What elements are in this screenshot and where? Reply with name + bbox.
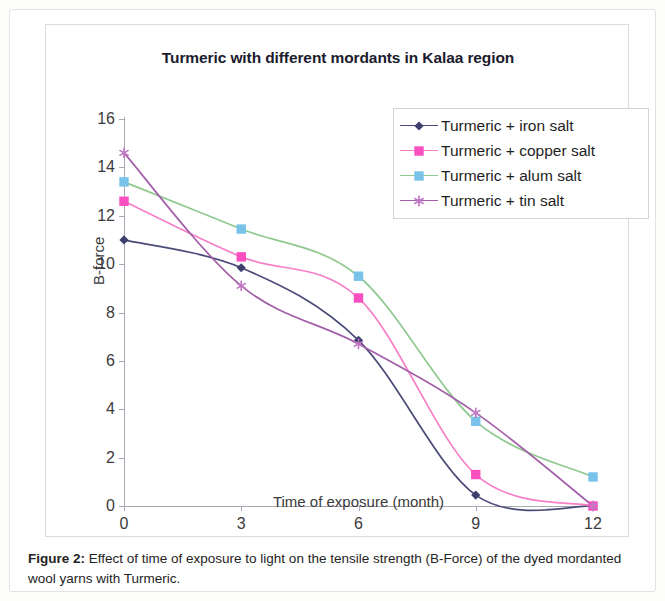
legend-swatch [400, 142, 438, 160]
data-point-marker [414, 171, 423, 180]
data-point-marker [414, 146, 423, 155]
legend-label: Turmeric + alum salt [441, 167, 581, 185]
data-point-marker [119, 177, 128, 186]
x-tick [241, 506, 242, 511]
legend-swatch [400, 192, 438, 210]
data-point-marker [471, 408, 480, 418]
legend-item-2[interactable]: Turmeric + alum salt [400, 163, 642, 188]
data-point-marker [237, 252, 246, 261]
legend-label: Turmeric + tin salt [441, 192, 564, 210]
chart-legend: Turmeric + iron saltTurmeric + copper sa… [393, 108, 649, 219]
x-tick-label: 3 [237, 515, 246, 533]
scanned-page: Turmeric with different mordants in Kala… [0, 0, 665, 601]
data-point-marker [414, 195, 423, 205]
legend-label: Turmeric + iron salt [441, 117, 574, 135]
y-tick-label: 2 [106, 449, 115, 467]
legend-marker-square-icon [400, 142, 438, 160]
caption-label: Figure 2: [28, 551, 85, 566]
y-tick-label: 4 [106, 400, 115, 418]
y-tick-label: 10 [97, 255, 115, 273]
x-tick-label: 0 [120, 515, 129, 533]
x-tick-label: 9 [471, 515, 480, 533]
y-tick-label: 6 [106, 352, 115, 370]
y-tick-label: 0 [106, 497, 115, 515]
data-point-marker [119, 235, 128, 244]
figure-chart-frame: Turmeric with different mordants in Kala… [45, 24, 629, 537]
data-point-marker [119, 197, 128, 206]
data-point-marker [414, 121, 423, 130]
legend-item-1[interactable]: Turmeric + copper salt [400, 138, 642, 163]
data-point-marker [471, 470, 480, 479]
x-tick [359, 506, 360, 511]
data-point-marker [354, 272, 363, 281]
y-tick-label: 14 [97, 158, 115, 176]
data-point-marker [237, 263, 246, 272]
x-tick [476, 506, 477, 511]
legend-item-0[interactable]: Turmeric + iron salt [400, 113, 642, 138]
y-tick-label: 12 [97, 207, 115, 225]
legend-label: Turmeric + copper salt [441, 142, 595, 160]
series-line [124, 182, 593, 477]
data-point-marker [237, 224, 246, 233]
series-line [124, 201, 593, 506]
y-tick-label: 8 [106, 304, 115, 322]
figure-caption: Figure 2: Effect of time of exposure to … [28, 549, 642, 590]
legend-marker-diamond-icon [400, 117, 438, 135]
x-tick-label: 12 [584, 515, 602, 533]
x-axis-line [124, 506, 596, 507]
x-tick [124, 506, 125, 511]
caption-text: Effect of time of exposure to light on t… [28, 551, 621, 586]
data-point-marker [588, 472, 597, 481]
x-tick-label: 6 [354, 515, 363, 533]
legend-swatch [400, 167, 438, 185]
legend-swatch [400, 117, 438, 135]
legend-marker-star-icon [400, 192, 438, 210]
legend-item-3[interactable]: Turmeric + tin salt [400, 188, 642, 213]
data-point-marker [354, 293, 363, 302]
y-tick-label: 16 [97, 110, 115, 128]
chart-title: Turmeric with different mordants in Kala… [46, 49, 630, 67]
legend-marker-square-icon [400, 167, 438, 185]
